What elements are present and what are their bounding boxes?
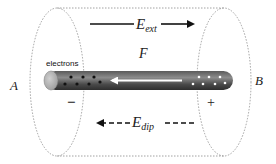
negative-sign: − [67, 94, 76, 110]
force-label: F [138, 46, 148, 61]
external-field-symbol: E [135, 16, 145, 32]
rod-left-cap [44, 71, 58, 90]
positive-sign: + [207, 95, 215, 110]
svg-text:Eext: Eext [135, 16, 157, 34]
dipole-field-arrow: Edip [98, 114, 196, 132]
svg-text:Edip: Edip [131, 114, 154, 132]
dipole-field-symbol: E [131, 114, 141, 130]
dipole-field-subscript: dip [141, 121, 154, 132]
left-end-label: A [9, 78, 18, 93]
right-end-label: B [255, 73, 263, 88]
external-field-subscript: ext [145, 23, 157, 34]
conductor-field-diagram: Eext F electrons [0, 0, 276, 164]
external-field-arrow: Eext [90, 16, 193, 34]
electrons-label: electrons [46, 59, 78, 68]
conducting-rod [44, 71, 233, 90]
